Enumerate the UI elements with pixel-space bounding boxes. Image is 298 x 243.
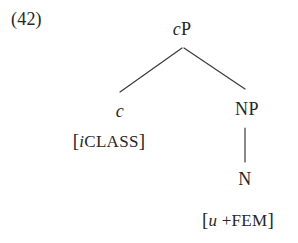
example-number: (42) bbox=[11, 10, 42, 28]
branch-root-to-np bbox=[184, 48, 245, 89]
close-bracket-icon: ] bbox=[139, 130, 146, 151]
node-left-c: c bbox=[116, 102, 124, 120]
node-root-italic-c: c bbox=[173, 19, 181, 39]
feature-bundle-iclass: [iCLASS] bbox=[73, 131, 145, 150]
feature-prefix-u: u bbox=[209, 211, 218, 230]
feature-bundle-u-fem: [u +FEM] bbox=[202, 210, 274, 229]
node-root-roman-P: P bbox=[181, 19, 191, 39]
close-bracket-icon: ] bbox=[267, 209, 274, 230]
feature-name-fem: FEM bbox=[232, 211, 268, 230]
tree-branches bbox=[0, 0, 298, 243]
node-left-italic-c: c bbox=[116, 101, 124, 121]
branch-root-to-c bbox=[120, 48, 182, 92]
feature-plus-sign: + bbox=[222, 211, 232, 230]
node-N: N bbox=[238, 170, 251, 188]
syntax-tree-figure: (42) cP c [iCLASS] NP N [u +FEM] bbox=[0, 0, 298, 243]
node-right-NP: NP bbox=[235, 100, 259, 118]
node-root-cP: cP bbox=[173, 20, 191, 38]
feature-name-class: CLASS bbox=[84, 132, 138, 151]
